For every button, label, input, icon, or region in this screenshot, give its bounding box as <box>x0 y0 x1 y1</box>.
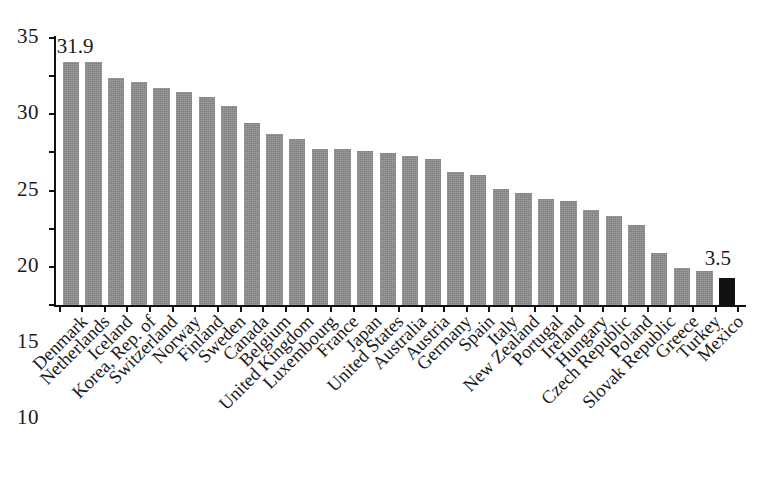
bar-finland[interactable] <box>199 97 215 305</box>
bar-portugal[interactable] <box>538 199 554 305</box>
bar-hungary[interactable] <box>583 210 599 305</box>
x-axis-tick <box>579 305 581 312</box>
y-axis-tick-label: 30 <box>17 102 39 123</box>
x-axis-label-norway: Norway <box>149 312 204 367</box>
x-axis-label-portugal: Portugal <box>509 312 566 369</box>
x-axis-label-spain: Spain <box>455 312 498 355</box>
x-axis-label-ireland: Ireland <box>538 312 588 362</box>
y-axis-tick: 25 <box>49 113 56 115</box>
bar-slovak-republic[interactable] <box>651 253 667 305</box>
x-axis-label-czech-republic: Czech Republic <box>538 312 634 408</box>
bar-czech-republic[interactable] <box>606 216 622 305</box>
y-axis-tick: 10 <box>49 228 56 230</box>
x-axis-tick <box>602 305 604 312</box>
y-axis-tick: 35 <box>49 37 56 39</box>
y-axis-tick-label: 35 <box>17 26 39 47</box>
x-axis-tick <box>624 305 626 312</box>
plot-area: 0510152025303531.93.5 <box>56 38 746 305</box>
x-axis-tick <box>647 305 649 312</box>
x-axis-tick <box>59 305 61 312</box>
x-axis-label-united-kingdom: United Kingdom <box>216 312 317 413</box>
x-axis-tick <box>715 305 717 312</box>
x-axis-tick <box>262 305 264 312</box>
x-axis-tick <box>375 305 377 312</box>
x-axis-tick <box>669 305 671 312</box>
bar-switzerland[interactable] <box>153 88 169 305</box>
x-axis-tick <box>556 305 558 312</box>
x-axis-tick <box>285 305 287 312</box>
bar-canada[interactable] <box>244 123 260 305</box>
x-axis-tick <box>511 305 513 312</box>
x-axis-label-korea-rep-of: Korea, Rep. of <box>69 312 159 402</box>
bar-united-states[interactable] <box>380 153 396 305</box>
x-axis-label-new-zealand: New Zealand <box>460 312 543 395</box>
bar-sweden[interactable] <box>221 106 237 305</box>
y-axis-tick: 5 <box>49 266 56 268</box>
x-axis-label-canada: Canada <box>220 312 272 364</box>
x-axis-label-austria: Austria <box>401 312 453 364</box>
bar-japan[interactable] <box>357 151 373 305</box>
x-axis-tick <box>307 305 309 312</box>
y-axis-tick-label: 10 <box>17 407 39 428</box>
x-axis-tick <box>149 305 151 312</box>
x-axis-label-united-states: United States <box>324 312 407 395</box>
x-axis-label-netherlands: Netherlands <box>37 312 113 388</box>
x-axis-label-poland: Poland <box>607 312 656 361</box>
x-axis-line <box>54 305 746 307</box>
bar-iceland[interactable] <box>108 78 124 305</box>
x-axis-tick <box>398 305 400 312</box>
bar-germany[interactable] <box>447 172 463 305</box>
x-axis-label-italy: Italy <box>484 312 521 349</box>
x-axis-label-germany: Germany <box>414 312 476 374</box>
x-axis-label-luxembourg: Luxembourg <box>259 312 339 392</box>
x-axis-label-mexico: Mexico <box>694 312 747 365</box>
x-axis-tick <box>466 305 468 312</box>
value-label-denmark: 31.9 <box>57 36 94 57</box>
bar-norway[interactable] <box>176 92 192 305</box>
bar-greece[interactable] <box>674 268 690 305</box>
x-axis-label-sweden: Sweden <box>195 312 250 367</box>
value-label-mexico: 3.5 <box>705 248 731 269</box>
x-axis-tick <box>488 305 490 312</box>
bar-chart: 0510152025303531.93.5 DenmarkNetherlands… <box>0 0 780 483</box>
x-axis-tick <box>353 305 355 312</box>
bar-luxembourg[interactable] <box>312 149 328 305</box>
bar-italy[interactable] <box>493 189 509 305</box>
x-axis-label-belgium: Belgium <box>236 312 294 370</box>
x-axis-tick <box>240 305 242 312</box>
x-axis-label-australia: Australia <box>369 312 430 373</box>
y-axis-tick: 20 <box>49 151 56 153</box>
y-axis-tick: 15 <box>49 190 56 192</box>
x-axis-tick <box>443 305 445 312</box>
y-axis-tick-label: 15 <box>17 331 39 352</box>
y-axis-tick: 0 <box>49 304 56 306</box>
x-axis-label-switzerland: Switzerland <box>106 312 182 388</box>
bar-australia[interactable] <box>402 156 418 305</box>
x-axis-label-hungary: Hungary <box>552 312 611 371</box>
bar-belgium[interactable] <box>266 134 282 305</box>
x-axis-label-turkey: Turkey <box>674 312 724 362</box>
bar-united-kingdom[interactable] <box>289 139 305 305</box>
x-axis-label-finland: Finland <box>174 312 227 365</box>
x-axis-tick <box>330 305 332 312</box>
bar-new-zealand[interactable] <box>515 193 531 305</box>
bar-austria[interactable] <box>425 159 441 305</box>
bar-france[interactable] <box>334 149 350 305</box>
x-axis-tick <box>104 305 106 312</box>
bar-denmark[interactable] <box>63 62 79 305</box>
bar-korea-rep-of[interactable] <box>131 82 147 305</box>
x-axis-label-greece: Greece <box>652 312 702 362</box>
x-axis-label-iceland: Iceland <box>85 312 137 364</box>
bar-netherlands[interactable] <box>85 62 101 305</box>
bar-mexico[interactable] <box>719 278 735 305</box>
x-axis-tick <box>126 305 128 312</box>
x-axis-label-japan: Japan <box>342 312 385 355</box>
x-axis-tick <box>172 305 174 312</box>
x-axis-tick <box>81 305 83 312</box>
bar-ireland[interactable] <box>560 201 576 306</box>
bar-poland[interactable] <box>628 225 644 305</box>
x-axis-tick <box>217 305 219 312</box>
x-axis-tick <box>421 305 423 312</box>
bar-turkey[interactable] <box>696 271 712 305</box>
bar-spain[interactable] <box>470 175 486 305</box>
